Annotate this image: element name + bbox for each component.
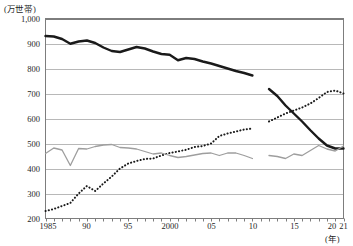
chart-container: (万世帯) (年) 1,000 900 800 700 600 500 400 …: [0, 0, 353, 246]
series-dotted-line-after-break: [269, 91, 344, 122]
plot-area: [0, 0, 353, 246]
gridlines: [46, 20, 344, 195]
series-thick-black-line-after-break: [269, 89, 344, 149]
data-series-layer: [46, 36, 344, 211]
series-gray-line: [46, 145, 253, 166]
